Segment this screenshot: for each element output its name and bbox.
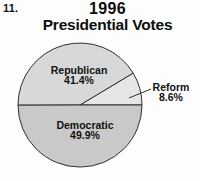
slice-label-republican-value: 41.4% [51, 75, 108, 85]
slice-label-republican: Republican 41.4% [51, 65, 108, 85]
slice-label-reform: Reform 8.6% [153, 82, 190, 102]
slice-label-democratic: Democratic 49.9% [56, 120, 113, 140]
slice-label-reform-value: 8.6% [153, 92, 190, 102]
slice-label-democratic-value: 49.9% [56, 130, 113, 140]
chart-figure: 11. 1996 Presidential Votes Republican 4… [0, 0, 200, 181]
pie-slices [18, 43, 142, 167]
